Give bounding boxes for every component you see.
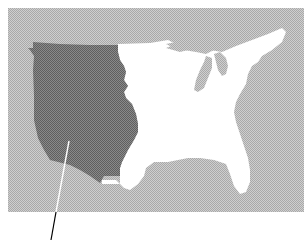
leader-line-tail (51, 212, 56, 240)
us-map (0, 0, 307, 241)
